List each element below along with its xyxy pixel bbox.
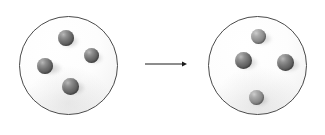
arrow-icon [145, 57, 188, 71]
particle-sphere [277, 54, 294, 71]
particle-sphere [62, 78, 79, 95]
particle-sphere [58, 30, 74, 46]
particle-sphere [249, 90, 264, 105]
particle-sphere [37, 58, 53, 74]
transition-arrow [145, 57, 188, 71]
particle-sphere [84, 48, 99, 63]
particle-state-diagram [0, 0, 325, 135]
particle-sphere [251, 29, 266, 44]
particle-sphere [235, 52, 252, 69]
